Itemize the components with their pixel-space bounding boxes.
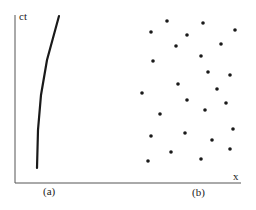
event-dot [199, 157, 203, 161]
panel-label-b: (b) [192, 186, 205, 199]
event-dot [149, 30, 153, 34]
event-dot [183, 131, 187, 135]
y-axis-label: ct [19, 10, 27, 22]
event-dots [140, 19, 237, 163]
event-dot [215, 87, 219, 91]
event-dot [185, 33, 189, 37]
event-dot [210, 138, 214, 142]
event-dot [176, 82, 180, 86]
event-dot [149, 134, 153, 138]
event-dot [174, 44, 178, 48]
event-dot [165, 19, 169, 23]
event-dot [203, 108, 207, 112]
event-dot [140, 91, 144, 95]
spacetime-diagram: ct x (a) (b) [0, 0, 256, 210]
axes [15, 15, 241, 183]
x-axis-label: x [233, 170, 239, 182]
event-dot [224, 101, 228, 105]
event-dot [206, 70, 210, 74]
event-dot [228, 147, 232, 151]
event-dot [158, 112, 162, 116]
event-dot [199, 54, 203, 58]
worldline-curve [37, 16, 59, 168]
event-dot [151, 59, 155, 63]
event-dot [185, 98, 189, 102]
event-dot [233, 28, 237, 32]
event-dot [219, 42, 223, 46]
event-dot [201, 21, 205, 25]
event-dot [231, 127, 235, 131]
event-dot [228, 73, 232, 77]
event-dot [146, 159, 150, 163]
event-dot [169, 150, 173, 154]
panel-label-a: (a) [43, 185, 56, 198]
